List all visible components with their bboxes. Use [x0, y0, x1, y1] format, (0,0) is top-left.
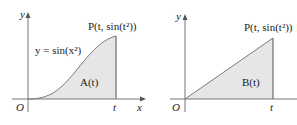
curve-equation-label: y = sin(x²)	[35, 44, 82, 57]
t-label: t	[113, 101, 117, 113]
y-axis-label: y	[19, 8, 25, 20]
y-axis-label: y	[175, 10, 181, 22]
t-label: t	[270, 101, 274, 113]
y-axis-arrow-icon	[183, 14, 188, 20]
origin-label: O	[16, 101, 24, 113]
area-b-label: B(t)	[242, 76, 260, 89]
point-p-label: P(t, sin(t²))	[244, 21, 293, 34]
y-axis-arrow-icon	[26, 12, 31, 18]
left-graph: y x O t y = sin(x²) P(t, sin(t²)) A(t)	[12, 8, 146, 113]
origin-label: O	[172, 101, 180, 113]
diagram-canvas: y x O t y = sin(x²) P(t, sin(t²)) A(t) y…	[0, 0, 297, 125]
area-a-label: A(t)	[80, 76, 99, 89]
point-p-label: P(t, sin(t²))	[88, 20, 137, 33]
right-graph: y O t P(t, sin(t²)) B(t)	[170, 10, 297, 113]
x-axis-label: x	[136, 101, 142, 113]
